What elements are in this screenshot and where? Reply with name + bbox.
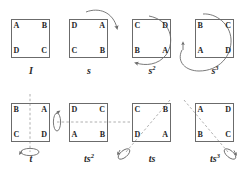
corner-label-tr: A bbox=[41, 106, 47, 114]
square-rotation-90: D A B C bbox=[69, 19, 108, 58]
corner-label-tr: B bbox=[163, 106, 168, 114]
operation-label-reflection-diagonal-down: ts3 bbox=[184, 153, 246, 164]
corner-label-tl: C bbox=[135, 106, 141, 114]
corner-label-tl: A bbox=[14, 22, 20, 30]
panel-rotation-90: D A B C s bbox=[58, 11, 120, 99]
corner-label-br: C bbox=[225, 131, 231, 139]
panel-reflection-diagonal-down: A D C B ts3 bbox=[184, 95, 246, 179]
operation-label-text: ts bbox=[210, 153, 217, 164]
panel-rotation-180: C D A B s2 bbox=[121, 11, 183, 99]
panel-reflection-horizontal: D C B A ts2 bbox=[58, 95, 120, 179]
corner-label-bl: C bbox=[72, 47, 78, 55]
square-identity: A B C D bbox=[11, 19, 50, 58]
corner-label-tl: B bbox=[14, 106, 19, 114]
corner-label-bl: C bbox=[14, 131, 20, 139]
operation-label-text: ts bbox=[84, 153, 91, 164]
panel-identity: A B C D I bbox=[0, 11, 62, 99]
corner-label-bl: B bbox=[198, 131, 203, 139]
operation-label-text: t bbox=[30, 153, 33, 164]
operation-label-reflection-diagonal-up: ts bbox=[121, 153, 183, 164]
corner-label-br: D bbox=[41, 131, 47, 139]
corner-label-tl: B bbox=[198, 22, 203, 30]
corner-label-tr: C bbox=[99, 106, 105, 114]
corner-label-tr: B bbox=[42, 22, 47, 30]
corner-label-br: B bbox=[100, 131, 105, 139]
operation-label-exponent: 2 bbox=[152, 64, 155, 71]
square-reflection-vertical: B A D C bbox=[11, 103, 50, 142]
corner-label-tr: A bbox=[99, 22, 105, 30]
corner-label-tr: D bbox=[162, 22, 168, 30]
corner-label-tl: C bbox=[135, 22, 141, 30]
operation-label-rotation-90: s bbox=[58, 65, 120, 76]
corner-label-tr: D bbox=[225, 106, 231, 114]
corner-label-bl: A bbox=[72, 131, 78, 139]
square-rotation-270: B C D A bbox=[195, 19, 234, 58]
corner-label-tl: A bbox=[198, 106, 204, 114]
corner-label-bl: D bbox=[135, 131, 141, 139]
corner-label-tl: D bbox=[72, 22, 78, 30]
operation-label-rotation-270: s3 bbox=[184, 65, 246, 76]
corner-label-tr: C bbox=[225, 22, 231, 30]
corner-label-tl: D bbox=[72, 106, 78, 114]
operation-label-text: ts bbox=[149, 153, 156, 164]
corner-label-br: A bbox=[162, 47, 168, 55]
corner-label-bl: A bbox=[198, 47, 204, 55]
corner-label-bl: B bbox=[135, 47, 140, 55]
panel-reflection-vertical: B A D C t bbox=[0, 95, 62, 179]
operation-label-identity: I bbox=[0, 65, 62, 76]
square-rotation-180: C D A B bbox=[132, 19, 171, 58]
operation-label-reflection-horizontal: ts2 bbox=[58, 153, 120, 164]
panel-reflection-diagonal-up: C B A D ts bbox=[121, 95, 183, 179]
operation-label-rotation-180: s2 bbox=[121, 65, 183, 76]
operation-label-exponent: 3 bbox=[217, 152, 220, 159]
operation-label-text: I bbox=[29, 65, 33, 76]
square-reflection-diagonal-up: C B A D bbox=[132, 103, 171, 142]
panel-rotation-270: B C D A s3 bbox=[184, 11, 246, 99]
square-reflection-diagonal-down: A D C B bbox=[195, 103, 234, 142]
corner-label-bl: D bbox=[14, 47, 20, 55]
corner-label-br: B bbox=[100, 47, 105, 55]
operation-label-reflection-vertical: t bbox=[0, 153, 62, 164]
operation-label-exponent: 3 bbox=[215, 64, 218, 71]
square-reflection-horizontal: D C B A bbox=[69, 103, 108, 142]
corner-label-br: A bbox=[162, 131, 168, 139]
corner-label-br: D bbox=[225, 47, 231, 55]
operation-label-text: s bbox=[87, 65, 91, 76]
symmetries-of-square-figure: A B C D I D A B C s C D A B s2 B C bbox=[0, 0, 250, 179]
corner-label-br: C bbox=[41, 47, 47, 55]
operation-label-exponent: 2 bbox=[91, 152, 94, 159]
